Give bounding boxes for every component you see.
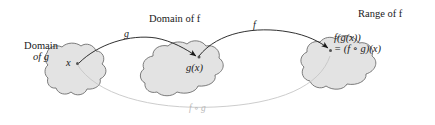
composite-arrow-label: f ∘ g xyxy=(189,104,206,114)
point-gx-label: g(x) xyxy=(186,62,203,73)
function-composition-diagram: Domain of g Domain of f Range of f g f f… xyxy=(0,0,435,125)
point-gx-dot xyxy=(198,56,201,59)
domain-of-g-label: Domain of g xyxy=(10,40,72,62)
fgx-line1: f(g(x)) xyxy=(334,32,381,43)
domain-of-g-label-line2: of g xyxy=(33,51,49,62)
domain-of-f-label: Domain of f xyxy=(149,13,200,24)
arrow-g-label: g xyxy=(124,29,129,40)
arrow-f-label: f xyxy=(253,20,256,31)
domain-of-g-label-line1: Domain xyxy=(24,40,58,51)
point-fgx-dot xyxy=(329,49,332,52)
domain-of-f-blob xyxy=(140,41,223,96)
range-of-f-label: Range of f xyxy=(358,8,402,19)
point-x-label: x xyxy=(66,57,71,68)
fgx-line2: = (f ∘ g)(x) xyxy=(334,43,381,54)
point-fgx-label: f(g(x)) = (f ∘ g)(x) xyxy=(334,32,381,54)
point-x-dot xyxy=(76,62,79,65)
